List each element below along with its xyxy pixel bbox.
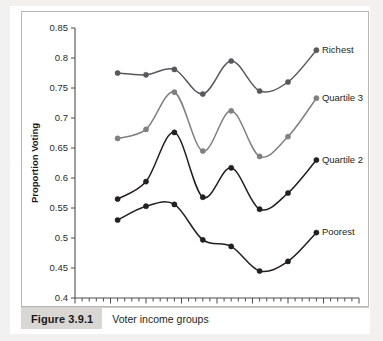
data-point bbox=[143, 179, 148, 184]
data-point bbox=[314, 230, 319, 235]
data-point bbox=[257, 207, 262, 212]
data-point bbox=[314, 96, 319, 101]
x-tick-label: 1995 bbox=[242, 305, 263, 306]
y-tick-label: 0.75 bbox=[50, 82, 69, 93]
x-axis-minor-ticks bbox=[75, 298, 359, 304]
y-tick-label: 0.6 bbox=[55, 172, 68, 183]
series-label: Quartile 2 bbox=[322, 154, 363, 165]
series-line bbox=[118, 132, 317, 210]
data-point bbox=[143, 72, 148, 77]
data-point bbox=[229, 58, 234, 63]
data-point bbox=[115, 196, 120, 201]
figure-number-label: Figure 3.9.1 bbox=[21, 308, 103, 329]
series-line bbox=[118, 92, 317, 157]
y-tick-label: 0.65 bbox=[50, 142, 69, 153]
y-tick-label: 0.55 bbox=[50, 202, 69, 213]
line-chart: 0.40.450.50.550.60.650.70.750.80.8519701… bbox=[22, 12, 368, 306]
figure-container: 0.40.450.50.550.60.650.70.750.80.8519701… bbox=[0, 0, 383, 341]
plot-area: 0.40.450.50.550.60.650.70.750.80.8519701… bbox=[21, 11, 369, 307]
series-label: Richest bbox=[322, 44, 354, 55]
data-point bbox=[143, 127, 148, 132]
data-point bbox=[257, 268, 262, 273]
data-point bbox=[229, 165, 234, 170]
y-tick-label: 0.8 bbox=[55, 52, 68, 63]
y-tick-label: 0.7 bbox=[55, 112, 68, 123]
data-point bbox=[143, 204, 148, 209]
data-point bbox=[314, 157, 319, 162]
series-quartile-3: Quartile 3 bbox=[115, 90, 363, 159]
data-point bbox=[229, 244, 234, 249]
x-tick-label: 2010 bbox=[348, 305, 368, 306]
series-quartile-2: Quartile 2 bbox=[115, 130, 363, 212]
y-axis-ticks: 0.40.450.50.550.60.650.70.750.80.85 bbox=[50, 22, 76, 303]
x-tick-label: 1980 bbox=[135, 305, 156, 306]
data-point bbox=[229, 108, 234, 113]
figure-card: 0.40.450.50.550.60.650.70.750.80.8519701… bbox=[10, 6, 370, 334]
y-axis-title: Proportion Voting bbox=[29, 123, 40, 203]
data-point bbox=[285, 259, 290, 264]
data-point bbox=[200, 195, 205, 200]
x-tick-label: 2005 bbox=[313, 305, 334, 306]
x-tick-label: 2000 bbox=[277, 305, 298, 306]
data-point bbox=[172, 90, 177, 95]
data-point bbox=[172, 130, 177, 135]
x-tick-label: 1985 bbox=[171, 305, 192, 306]
x-tick-label: 1970 bbox=[64, 305, 85, 306]
data-point bbox=[115, 217, 120, 222]
x-tick-label: 1975 bbox=[100, 305, 121, 306]
y-tick-label: 0.45 bbox=[50, 262, 69, 273]
data-point bbox=[200, 148, 205, 153]
series-label: Quartile 3 bbox=[322, 92, 363, 103]
data-point bbox=[314, 48, 319, 53]
series-richest: Richest bbox=[115, 44, 354, 97]
data-point bbox=[285, 79, 290, 84]
data-point bbox=[115, 136, 120, 141]
data-point bbox=[200, 91, 205, 96]
axes bbox=[75, 28, 359, 298]
data-point bbox=[285, 190, 290, 195]
figure-caption-text: Voter income groups bbox=[103, 308, 208, 329]
data-point bbox=[115, 70, 120, 75]
series-label: Poorest bbox=[322, 226, 355, 237]
data-point bbox=[200, 237, 205, 242]
y-tick-label: 0.5 bbox=[55, 232, 68, 243]
y-tick-label: 0.4 bbox=[55, 292, 68, 303]
data-point bbox=[285, 134, 290, 139]
series-line bbox=[118, 50, 317, 94]
data-point bbox=[257, 154, 262, 159]
y-tick-label: 0.85 bbox=[50, 22, 69, 33]
series-poorest: Poorest bbox=[115, 202, 355, 274]
x-tick-label: 1990 bbox=[206, 305, 227, 306]
figure-caption-bar: Figure 3.9.1 Voter income groups bbox=[21, 307, 369, 329]
x-axis-labels: 197019751980198519901995200020052010 bbox=[64, 305, 368, 306]
data-point bbox=[257, 88, 262, 93]
data-point bbox=[172, 202, 177, 207]
data-point bbox=[172, 67, 177, 72]
